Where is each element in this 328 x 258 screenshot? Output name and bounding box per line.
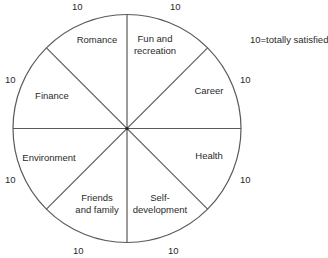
- legend-text: 10=totally satisfied: [250, 34, 328, 46]
- segment-label-friends-line1: Friends: [70, 192, 124, 204]
- score-label-self: 10: [168, 246, 179, 256]
- score-label-friends: 10: [73, 246, 84, 256]
- segment-label-fun-line2: recreation: [130, 45, 180, 57]
- score-label-environment: 10: [5, 175, 16, 185]
- segment-label-self: Self- development: [130, 192, 190, 216]
- segment-label-career: Career: [184, 85, 234, 97]
- segment-label-environment-line1: Environment: [22, 152, 75, 163]
- segment-label-finance-line1: Finance: [35, 90, 69, 101]
- segment-label-health: Health: [184, 150, 234, 162]
- segment-label-career-line1: Career: [194, 85, 223, 96]
- segment-label-friends-line2: and family: [70, 204, 124, 216]
- segment-label-friends: Friends and family: [70, 192, 124, 216]
- segment-label-health-line1: Health: [195, 150, 222, 161]
- score-label-finance: 10: [5, 75, 16, 85]
- segment-label-environment: Environment: [20, 152, 78, 164]
- segment-label-romance-line1: Romance: [77, 34, 118, 45]
- segment-label-self-line1: Self-: [130, 192, 190, 204]
- score-label-romance: 10: [72, 2, 83, 12]
- segment-label-self-line2: development: [130, 204, 190, 216]
- segment-label-fun-line1: Fun and: [130, 33, 180, 45]
- segment-label-fun: Fun and recreation: [130, 33, 180, 57]
- segment-label-finance: Finance: [27, 90, 77, 102]
- score-label-career: 10: [240, 75, 251, 85]
- center-point: [125, 127, 128, 130]
- score-label-health: 10: [240, 175, 251, 185]
- score-label-fun: 10: [170, 2, 181, 12]
- segment-label-romance: Romance: [70, 34, 124, 46]
